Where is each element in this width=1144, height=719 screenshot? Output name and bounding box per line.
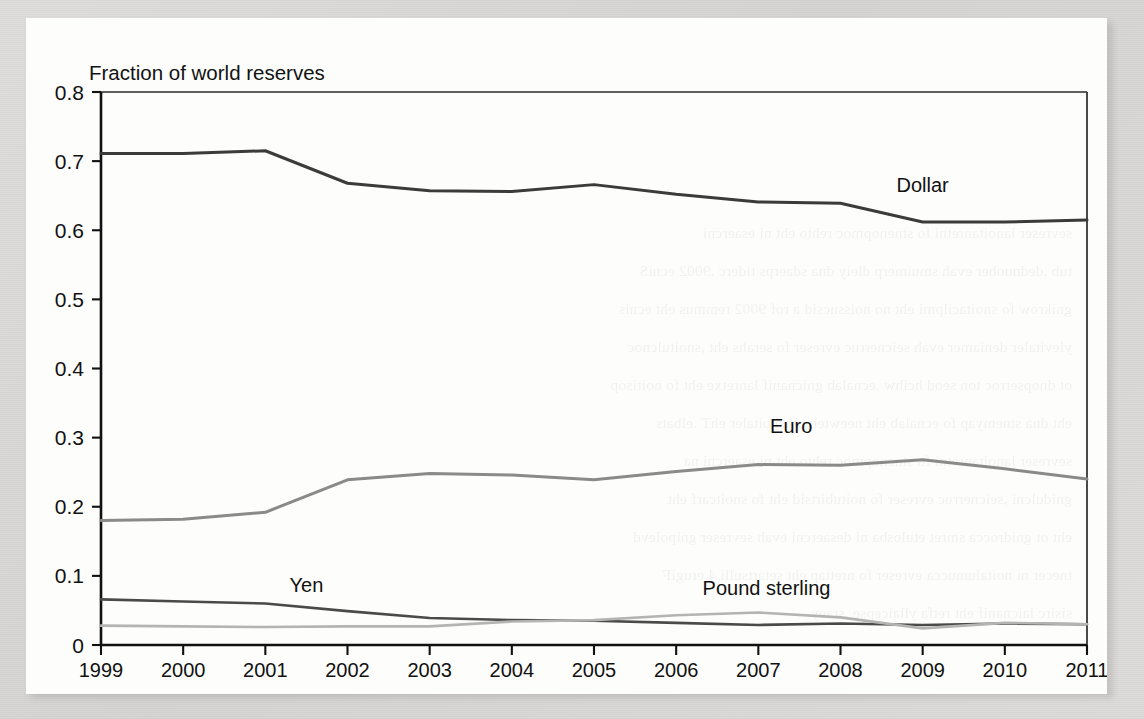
series-label-yen: Yen: [290, 574, 324, 596]
x-tick-label: 1999: [79, 659, 124, 681]
x-tick-label: 2005: [572, 659, 617, 681]
y-tick-label: 0.2: [55, 495, 84, 518]
series-label-dollar: Dollar: [897, 174, 950, 196]
series-label-euro: Euro: [770, 415, 812, 437]
y-tick-label: 0.1: [55, 564, 84, 587]
series-labels: DollarEuroYenPound sterling: [290, 174, 950, 599]
y-tick-label: 0.4: [55, 357, 85, 380]
x-tick-label: 2003: [407, 659, 452, 681]
line-chart: 00.10.20.30.40.50.60.70.8 19992000200120…: [26, 18, 1107, 694]
x-tick-label: 2000: [161, 659, 206, 681]
chart-panel: sevreser lanoitanretni fo stnenopmoc reh…: [26, 18, 1107, 694]
y-tick-label: 0.3: [55, 426, 84, 449]
x-tick-label: 2011: [1065, 659, 1107, 681]
series-label-pound-sterling: Pound sterling: [703, 577, 831, 599]
x-tick-label: 2002: [325, 659, 370, 681]
series-line-euro: [101, 460, 1087, 521]
series-lines: [101, 151, 1087, 629]
y-tick-label: 0.6: [55, 219, 84, 242]
x-tick-label: 2001: [243, 659, 288, 681]
y-tick-label: 0.7: [55, 150, 84, 173]
x-tick-label: 2010: [983, 659, 1027, 681]
y-tick-label: 0.8: [55, 81, 84, 104]
x-tick-label: 2008: [818, 659, 863, 681]
series-line-pound-sterling: [101, 613, 1087, 629]
x-tick-label: 2009: [900, 659, 945, 681]
x-tick-label: 2007: [736, 659, 781, 681]
y-tick-label: 0.5: [55, 288, 84, 311]
figure-root: sevreser lanoitanretni fo stnenopmoc reh…: [0, 0, 1144, 719]
y-axis-ticks: 00.10.20.30.40.50.60.70.8: [55, 81, 101, 657]
x-tick-label: 2004: [490, 659, 535, 681]
x-axis-ticks: 1999200020012002200320042005200620072008…: [79, 645, 1107, 681]
x-tick-label: 2006: [654, 659, 699, 681]
y-tick-label: 0: [72, 634, 84, 657]
